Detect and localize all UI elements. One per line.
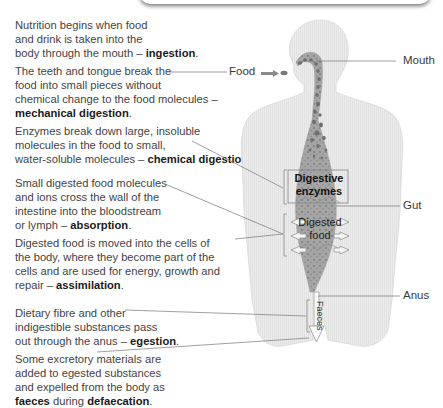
label-food: Food [229, 65, 255, 77]
food-arrow-icon [261, 70, 288, 77]
label-mouth: Mouth [403, 54, 435, 66]
label-anus: Anus [403, 289, 429, 301]
faeces-label: Faeces [315, 301, 325, 331]
label-digested-food: Digested food [297, 216, 343, 242]
label-digestive-enzymes: Digestive enzymes [291, 172, 347, 198]
label-gut: Gut [403, 199, 422, 211]
